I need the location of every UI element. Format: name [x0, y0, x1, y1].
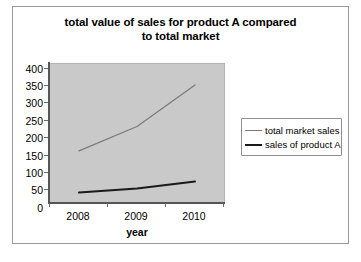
y-tick-label-100: 100 — [13, 168, 43, 178]
series-line-sales-of-product-a — [79, 182, 195, 193]
y-tick-label-0: 0 — [13, 203, 43, 213]
legend-item-sales-of-product-a: sales of product A — [245, 137, 338, 151]
legend-line-icon-sales-of-product-a — [245, 140, 262, 148]
chart-title-line-2: to total market — [13, 29, 348, 43]
series-line-total-market-sales — [79, 85, 195, 151]
chart-container: total value of sales for product A compa… — [12, 6, 349, 244]
x-tick-label-2008: 2008 — [49, 210, 107, 222]
legend-label-sales-of-product-a: sales of product A — [265, 139, 341, 150]
chart-title: total value of sales for product A compa… — [13, 15, 348, 43]
x-axis-line — [48, 202, 225, 204]
y-tick-label-200: 200 — [13, 133, 43, 143]
y-axis-labels: 400 350 300 250 200 150 100 50 0 — [13, 7, 43, 243]
legend-line-icon-total-market-sales — [245, 126, 262, 134]
x-tick-mark-left — [49, 203, 50, 207]
plot-area — [49, 63, 225, 203]
y-tick-label-400: 400 — [13, 64, 43, 74]
series-lines — [50, 64, 224, 203]
x-axis-title: year — [49, 226, 225, 238]
x-tick-label-2009: 2009 — [107, 210, 165, 222]
y-axis-line — [48, 62, 50, 203]
x-tick-mark-right — [223, 203, 224, 207]
x-tick-label-2010: 2010 — [165, 210, 223, 222]
x-tick-mark-1 — [107, 203, 108, 207]
x-tick-mark-2 — [165, 203, 166, 207]
y-tick-label-50: 50 — [13, 185, 43, 195]
y-tick-label-250: 250 — [13, 116, 43, 126]
chart-title-line-1: total value of sales for product A compa… — [13, 15, 348, 29]
chart-legend: total market sales sales of product A — [241, 118, 342, 156]
legend-item-total-market-sales: total market sales — [245, 123, 338, 137]
y-tick-label-150: 150 — [13, 151, 43, 161]
y-tick-label-300: 300 — [13, 98, 43, 108]
y-tick-label-350: 350 — [13, 81, 43, 91]
legend-label-total-market-sales: total market sales — [265, 125, 339, 136]
